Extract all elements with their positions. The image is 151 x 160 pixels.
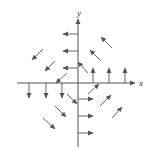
vector-arrow-diag-se-3 xyxy=(43,118,55,129)
y-axis-label: y xyxy=(76,8,81,18)
vector-arrow-diag-nw-3 xyxy=(78,62,88,73)
vector-arrow-diag-ne-1 xyxy=(88,84,99,94)
vector-arrow-diag-sw-1 xyxy=(32,49,43,60)
vector-field-diagram: x y xyxy=(0,0,151,160)
vector-arrow-diag-ne-2 xyxy=(100,95,111,106)
vector-arrow-diag-ne-3 xyxy=(112,107,122,118)
vector-arrow-diag-sw-3 xyxy=(56,73,67,83)
vector-arrow-diag-se-1 xyxy=(67,94,77,104)
vector-arrow-diag-se-2 xyxy=(55,106,66,117)
axes xyxy=(17,19,135,147)
vector-arrow-diag-sw-2 xyxy=(45,61,55,71)
vector-arrow-diag-nw-2 xyxy=(90,50,101,61)
x-axis-label: x xyxy=(138,78,143,88)
vector-arrow-diag-nw-1 xyxy=(101,37,112,48)
